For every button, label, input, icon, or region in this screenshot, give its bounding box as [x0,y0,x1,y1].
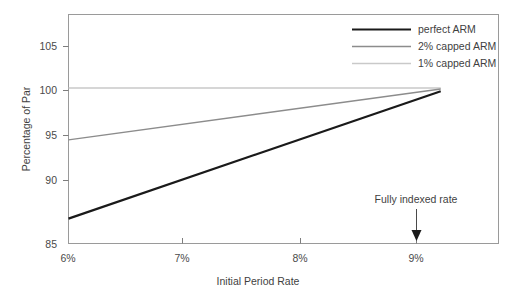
y-tick-label-100: 100 [39,84,57,96]
y-axis-title: Percentage of Par [20,86,32,171]
y-tick-label-85: 85 [45,238,57,250]
arm-percentage-of-par-chart: 105 100 95 90 85 Percentage of Par 6% 7%… [0,0,520,302]
annotation-label: Fully indexed rate [375,193,458,205]
y-tick-label-95: 95 [45,129,57,141]
y-tick-label-90: 90 [45,174,57,186]
legend-label-1-capped-arm: 1% capped ARM [418,57,496,69]
chart-figure: 105 100 95 90 85 Percentage of Par 6% 7%… [0,0,520,302]
y-tick-label-105: 105 [39,40,57,52]
legend-label-2-capped-arm: 2% capped ARM [418,40,496,52]
x-axis-title: Initial Period Rate [217,275,300,287]
x-tick-label-7: 7% [174,252,189,264]
x-tick-label-8: 8% [292,252,307,264]
x-tick-label-6: 6% [60,252,75,264]
x-tick-label-9: 9% [408,252,423,264]
legend-label-perfect-arm: perfect ARM [418,23,476,35]
